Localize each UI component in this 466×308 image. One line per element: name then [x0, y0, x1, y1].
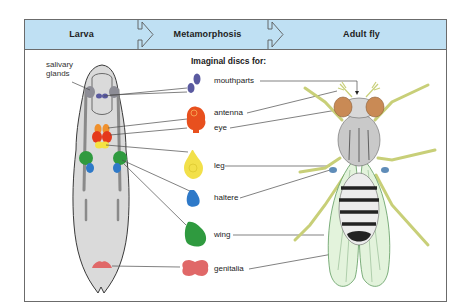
- disc-leg: [184, 150, 203, 179]
- disc-mouthparts: [188, 83, 195, 93]
- diagram-art: [0, 0, 466, 308]
- label-haltere: haltere: [214, 193, 238, 202]
- salivary-glands-label-line1: salivary: [46, 60, 73, 69]
- label-eye: eye: [214, 123, 227, 132]
- adult-fly-drawing: [295, 82, 435, 286]
- label-wing: wing: [214, 230, 230, 239]
- salivary-glands-label-line2: glands: [46, 69, 73, 78]
- larva-drawing: [73, 65, 129, 293]
- disc-genitalia: [182, 260, 208, 276]
- salivary-glands-label: salivary glands: [46, 60, 73, 78]
- discs-title: Imaginal discs for:: [191, 56, 266, 66]
- label-leg: leg: [214, 161, 225, 170]
- label-mouthparts: mouthparts: [214, 76, 254, 85]
- disc-wing: [185, 222, 206, 247]
- label-antenna: antenna: [214, 108, 243, 117]
- disc-haltere: [187, 190, 200, 207]
- label-genitalia: genitalia: [214, 264, 244, 273]
- imaginal-discs: [182, 74, 208, 277]
